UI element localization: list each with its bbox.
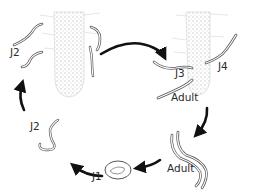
worm-j2-top-1 — [14, 24, 42, 45]
arrow-adult-to-j1 — [138, 160, 160, 168]
nematode-life-cycle-diagram: J2 J3 J4 Adult Adult J1 J2 — [0, 0, 257, 196]
worm-adult-bottom — [172, 132, 207, 188]
arrow-adult-to-adult — [197, 108, 207, 134]
worm-j3 — [154, 62, 192, 68]
label-j3: J3 — [175, 68, 185, 79]
diagram-canvas — [0, 0, 257, 196]
label-j4: J4 — [218, 61, 228, 72]
label-j1: J1 — [92, 171, 102, 182]
label-adult-root: Adult — [171, 92, 198, 103]
arrow-j2-to-root — [20, 84, 24, 110]
arrow-j2-to-j3 — [101, 43, 164, 56]
worm-j2-top-4 — [90, 47, 93, 76]
worm-j2-top-2 — [22, 52, 42, 67]
egg-j1 — [105, 161, 131, 179]
label-j2-left: J2 — [30, 121, 40, 132]
worm-j2-top-3 — [91, 27, 100, 50]
worm-j4 — [206, 35, 236, 63]
worm-j2-hatched — [40, 120, 58, 150]
label-adult-bottom: Adult — [167, 163, 194, 174]
root-right — [172, 12, 228, 95]
label-j2-top: J2 — [10, 47, 20, 58]
